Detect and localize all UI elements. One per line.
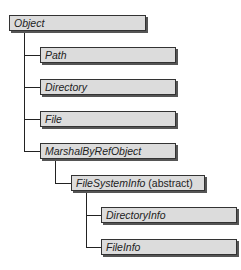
- connector-path: [24, 55, 40, 56]
- node-label: DirectoryInfo: [106, 209, 166, 221]
- node-label: FileSystemInfo: [76, 177, 145, 189]
- connector-marshal-trunk: [55, 159, 56, 183]
- node-file: File: [40, 111, 176, 127]
- node-directoryinfo: DirectoryInfo: [101, 207, 237, 223]
- node-directory: Directory: [40, 79, 176, 95]
- connector-object-trunk: [24, 31, 25, 151]
- node-label: Path: [45, 49, 67, 61]
- connector-fileinfo: [86, 247, 101, 248]
- node-label: Directory: [45, 81, 87, 93]
- node-fileinfo: FileInfo: [101, 239, 237, 255]
- node-label: Object: [14, 17, 44, 29]
- node-label: File: [45, 113, 62, 125]
- connector-fsi: [55, 183, 71, 184]
- connector-fsi-trunk: [86, 191, 87, 247]
- node-path: Path: [40, 47, 176, 63]
- connector-marshal: [24, 151, 40, 152]
- node-object: Object: [9, 15, 146, 31]
- connector-file: [24, 119, 40, 120]
- node-marshalbyrefobject: MarshalByRefObject: [40, 143, 176, 159]
- connector-dirinfo: [86, 215, 101, 216]
- connector-directory: [24, 87, 40, 88]
- node-label: MarshalByRefObject: [45, 145, 141, 157]
- node-label: FileInfo: [106, 241, 140, 253]
- node-filesysteminfo: FileSystemInfo (abstract): [71, 175, 205, 191]
- node-suffix: (abstract): [145, 177, 192, 189]
